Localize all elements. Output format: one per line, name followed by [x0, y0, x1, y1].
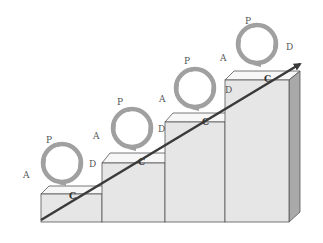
label-act: A: [158, 94, 166, 104]
step-block-3: [165, 113, 231, 222]
label-do: D: [89, 159, 96, 169]
label-do: D: [158, 124, 165, 134]
label-plan: P: [46, 135, 52, 145]
label-plan: P: [184, 56, 190, 66]
step-block-4: [225, 71, 300, 222]
label-act: A: [219, 53, 227, 63]
label-do: D: [225, 85, 232, 95]
label-act: A: [92, 131, 100, 141]
label-plan: P: [117, 97, 123, 107]
label-plan: P: [245, 16, 251, 26]
label-act: A: [22, 170, 30, 180]
pdca-staircase-diagram: P D C A P D C A P D C A P D C A: [0, 0, 323, 243]
label-do: D: [286, 42, 293, 52]
